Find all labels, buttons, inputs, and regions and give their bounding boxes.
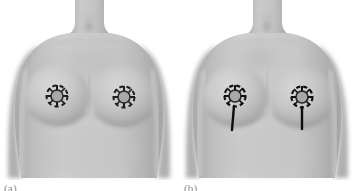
areola-inner-circle	[296, 91, 308, 103]
marking-left-breast-a	[113, 86, 135, 108]
areola-inner-circle	[229, 90, 241, 102]
cleavage-shadow-a	[89, 72, 90, 114]
panel-caption-a: (a)	[4, 182, 17, 191]
marking-right-breast-a	[46, 85, 68, 107]
torso-illustration-a	[0, 0, 178, 180]
abdomen-shading-b	[217, 126, 317, 178]
figure-panel-b: (b)	[178, 0, 356, 191]
areola-inner-circle	[51, 90, 63, 102]
torso-illustration-b	[178, 0, 356, 180]
abdomen-shading-a	[39, 126, 139, 178]
cleavage-shadow-b	[267, 72, 268, 114]
areola-inner-circle	[118, 91, 130, 103]
figure-root: (a)	[0, 0, 356, 191]
figure-panel-a: (a)	[0, 0, 178, 191]
panel-caption-b: (b)	[184, 182, 197, 191]
